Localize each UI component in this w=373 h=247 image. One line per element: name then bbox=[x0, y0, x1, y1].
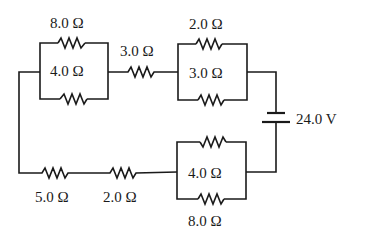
resistor-3ohm-series bbox=[108, 67, 178, 77]
battery-24v bbox=[262, 113, 290, 122]
resistor-3ohm-top-right bbox=[198, 95, 224, 105]
resistor-8ohm-top-left bbox=[58, 38, 85, 48]
wire-right-bottom bbox=[246, 122, 276, 172]
label-battery-voltage: 24.0 V bbox=[296, 112, 337, 127]
label-8ohm-bottom: 8.0 Ω bbox=[188, 214, 222, 229]
bottom-series-wire bbox=[40, 168, 177, 178]
resistor-8ohm-bottom bbox=[198, 194, 224, 204]
label-8ohm-top-left: 8.0 Ω bbox=[50, 16, 84, 31]
label-2ohm-top-right: 2.0 Ω bbox=[189, 17, 223, 32]
resistor-4ohm-top-left bbox=[60, 94, 87, 104]
label-3ohm-top-right: 3.0 Ω bbox=[189, 66, 223, 81]
resistor-4ohm-bottom bbox=[200, 137, 226, 147]
wire-right-top bbox=[247, 72, 276, 113]
label-4ohm-top-left: 4.0 Ω bbox=[50, 64, 84, 79]
label-4ohm-bottom: 4.0 Ω bbox=[188, 166, 222, 181]
wire-left bbox=[19, 72, 40, 173]
resistor-2ohm-top-right bbox=[196, 39, 222, 49]
label-3ohm-series: 3.0 Ω bbox=[120, 44, 154, 59]
label-5ohm-bottom-series: 5.0 Ω bbox=[35, 190, 69, 205]
label-2ohm-bottom-series: 2.0 Ω bbox=[103, 190, 137, 205]
